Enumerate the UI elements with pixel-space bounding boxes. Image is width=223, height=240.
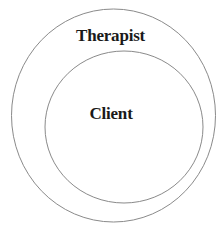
inner-circle-client (45, 51, 203, 203)
therapist-label: Therapist (76, 26, 142, 46)
client-label: Client (84, 104, 138, 124)
